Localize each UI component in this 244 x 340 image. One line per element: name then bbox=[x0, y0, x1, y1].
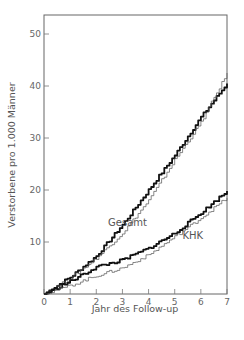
annotation-khk: KHK bbox=[183, 230, 204, 241]
plot-frame bbox=[44, 15, 227, 294]
series-lines bbox=[44, 73, 227, 294]
y-axis-ticks: 1020304050 bbox=[30, 29, 49, 247]
series-line-gesamt-thin bbox=[44, 73, 227, 294]
survival-chart: 1020304050 01234567 GesamtKHK Verstorben… bbox=[0, 0, 244, 340]
annotation-gesamt: Gesamt bbox=[108, 217, 147, 228]
x-tick-label: 7 bbox=[224, 297, 230, 307]
y-tick-label: 50 bbox=[30, 29, 42, 39]
x-tick-label: 0 bbox=[41, 297, 47, 307]
x-tick-label: 1 bbox=[67, 297, 73, 307]
y-tick-label: 30 bbox=[30, 133, 42, 143]
y-tick-label: 40 bbox=[30, 81, 42, 91]
x-axis-label: Jahr des Follow-up bbox=[91, 303, 179, 314]
y-tick-label: 20 bbox=[30, 185, 42, 195]
y-tick-label: 10 bbox=[30, 237, 42, 247]
y-axis-label: Verstorbene pro 1.000 Männer bbox=[6, 82, 17, 227]
x-tick-label: 6 bbox=[198, 297, 204, 307]
series-line-khk-thick bbox=[44, 191, 227, 294]
